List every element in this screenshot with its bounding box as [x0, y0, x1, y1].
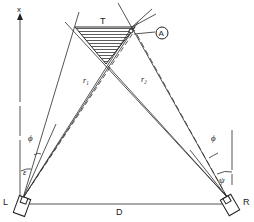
range-left-label: r₁: [83, 76, 89, 85]
angle-phi-left: ϕ: [28, 133, 33, 143]
left-sensor-label: L: [3, 197, 8, 207]
left-sensor: [13, 195, 30, 216]
angle-epsilon: ε: [23, 167, 27, 177]
right-sensor: [220, 194, 239, 216]
baseline-label: D: [116, 207, 123, 217]
angle-phi-right: ϕ: [211, 133, 216, 143]
right-sensor-label: R: [243, 197, 250, 207]
angle-psi: ψ: [219, 175, 225, 185]
triangulation-diagram: x T A r₁ r₂ ϕ ε ϕ ψ L R D: [0, 0, 254, 222]
point-label: A: [159, 29, 165, 38]
target-label: T: [100, 16, 106, 26]
axis-label: x: [17, 5, 21, 14]
range-right-label: r₂: [141, 75, 147, 84]
target-region: [75, 27, 135, 64]
diagram-canvas: x T A r₁ r₂ ϕ ε ϕ ψ L R D: [0, 0, 254, 222]
